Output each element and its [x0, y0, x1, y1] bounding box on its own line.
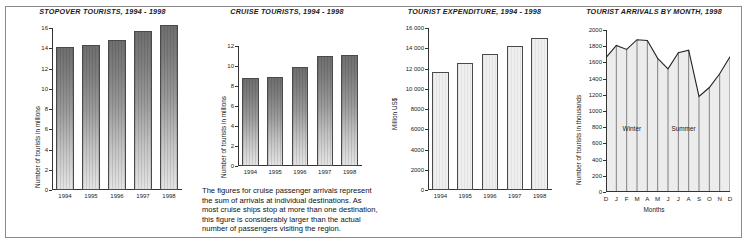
y-tick-label-cruise: 0 — [231, 163, 234, 169]
y-tick-stopover — [49, 28, 52, 29]
tourism-statistics-figure: STOPOVER TOURISTS, 1994 - 1998 Number of… — [0, 0, 747, 244]
x-tick-label-arrivals: F — [625, 195, 629, 202]
y-tick-arrivals — [603, 143, 606, 144]
x-tick-label-stopover: 1994 — [52, 193, 78, 199]
chart-panel-arrivals-by-month: TOURIST ARRIVALS BY MONTH, 1998 Number o… — [566, 0, 742, 232]
y-tick-expenditure — [425, 150, 428, 151]
y-tick-arrivals — [603, 79, 606, 80]
y-tick-label-stopover: 6 — [45, 126, 48, 132]
bar-cruise — [267, 77, 283, 166]
y-tick-label-expenditure: 16 000 — [406, 25, 424, 31]
plot-area-cruise-tourists: 02468101219941995199619971998 — [238, 46, 362, 166]
bar-stopover — [82, 45, 99, 190]
y-tick-expenditure — [425, 170, 428, 171]
y-tick-label-expenditure: 8000 — [411, 106, 424, 112]
bar-stopover — [108, 40, 125, 190]
y-tick-stopover — [49, 109, 52, 110]
chart-title-arrivals-by-month: TOURIST ARRIVALS BY MONTH, 1998 — [566, 7, 742, 16]
y-tick-label-stopover: 4 — [45, 147, 48, 153]
bar-cruise — [292, 67, 308, 166]
y-tick-arrivals — [603, 30, 606, 31]
x-tick-label-arrivals: J — [677, 195, 680, 202]
y-tick-label-cruise: 4 — [231, 123, 234, 129]
x-tick-label-arrivals: J — [666, 195, 669, 202]
x-tick-label-expenditure: 1994 — [428, 193, 453, 199]
x-tick-label-arrivals: A — [645, 195, 649, 202]
season-annotation-winter: Winter — [623, 125, 641, 132]
x-tick-label-cruise: 1994 — [238, 169, 263, 175]
x-tick-label-expenditure: 1996 — [478, 193, 503, 199]
y-tick-label-arrivals: 1400 — [589, 76, 602, 82]
y-tick-label-cruise: 12 — [227, 43, 234, 49]
x-tick-label-stopover: 1997 — [130, 193, 156, 199]
y-tick-label-arrivals: 1800 — [589, 43, 602, 49]
y-tick-cruise — [235, 146, 238, 147]
y-tick-label-stopover: 12 — [41, 66, 48, 72]
y-tick-label-expenditure: 6000 — [411, 126, 424, 132]
y-tick-arrivals — [603, 176, 606, 177]
x-tick-label-stopover: 1996 — [104, 193, 130, 199]
y-tick-label-expenditure: 10 000 — [406, 86, 424, 92]
bar-cruise — [341, 55, 357, 166]
y-axis-stopover-tourists — [52, 28, 53, 190]
y-tick-label-stopover: 10 — [41, 86, 48, 92]
y-tick-label-cruise: 10 — [227, 63, 234, 69]
bar-cruise — [242, 78, 258, 166]
y-tick-cruise — [235, 166, 238, 167]
bar-stopover — [160, 25, 177, 190]
y-tick-expenditure — [425, 129, 428, 130]
y-tick-cruise — [235, 86, 238, 87]
y-tick-cruise — [235, 126, 238, 127]
y-tick-stopover — [49, 190, 52, 191]
chart-title-tourist-expenditure: TOURIST EXPENDITURE, 1994 - 1998 — [382, 7, 567, 16]
y-tick-label-expenditure: 2000 — [411, 167, 424, 173]
y-tick-label-arrivals: 2000 — [589, 27, 602, 33]
x-tick-label-arrivals: S — [697, 195, 701, 202]
y-axis-cruise-tourists — [238, 46, 239, 166]
y-axis-label-cruise-tourists: Number of tourists in millions — [220, 96, 227, 178]
y-tick-label-expenditure: 4000 — [411, 147, 424, 153]
bar-expenditure — [432, 72, 448, 190]
y-tick-label-cruise: 8 — [231, 83, 234, 89]
y-tick-label-expenditure: 12 000 — [406, 66, 424, 72]
y-tick-label-expenditure: 0 — [421, 187, 424, 193]
y-tick-label-stopover: 16 — [41, 25, 48, 31]
y-tick-label-expenditure: 14 000 — [406, 45, 424, 51]
y-axis-label-stopover-tourists: Number of tourists in millions — [34, 106, 41, 188]
y-tick-label-stopover: 8 — [45, 106, 48, 112]
y-axis-label-tourist-expenditure: Million US$ — [391, 98, 398, 130]
y-tick-label-arrivals: 200 — [592, 173, 602, 179]
bar-expenditure — [457, 63, 473, 190]
y-tick-stopover — [49, 150, 52, 151]
y-tick-label-arrivals: 1200 — [589, 92, 602, 98]
chart-panel-cruise-tourists: CRUISE TOURISTS, 1994 - 1998 Number of t… — [196, 0, 378, 232]
bar-expenditure — [482, 54, 498, 190]
plot-area-stopover-tourists: 024681012141619941995199619971998 — [52, 28, 182, 190]
y-tick-label-stopover: 0 — [45, 187, 48, 193]
x-tick-label-arrivals: A — [687, 195, 691, 202]
x-tick-label-cruise: 1998 — [337, 169, 362, 175]
y-tick-label-arrivals: 1600 — [589, 59, 602, 65]
x-tick-label-arrivals: N — [717, 195, 721, 202]
chart-title-cruise-tourists: CRUISE TOURISTS, 1994 - 1998 — [196, 7, 378, 16]
y-axis-tourist-expenditure — [428, 28, 429, 190]
y-tick-arrivals — [603, 192, 606, 193]
x-tick-label-arrivals: M — [634, 195, 639, 202]
y-tick-stopover — [49, 89, 52, 90]
y-tick-label-stopover: 14 — [41, 45, 48, 51]
area-series-arrivals — [606, 30, 730, 192]
plot-area-tourist-expenditure: 0200040006000800010 00012 00014 00016 00… — [428, 28, 552, 190]
y-tick-arrivals — [603, 127, 606, 128]
y-tick-arrivals — [603, 95, 606, 96]
y-tick-label-cruise: 2 — [231, 143, 234, 149]
bar-expenditure — [507, 46, 523, 190]
y-tick-label-cruise: 6 — [231, 103, 234, 109]
y-axis-arrivals-by-month — [606, 30, 607, 192]
bar-stopover — [56, 47, 73, 190]
x-tick-label-cruise: 1997 — [312, 169, 337, 175]
y-tick-arrivals — [603, 111, 606, 112]
y-tick-expenditure — [425, 28, 428, 29]
y-tick-stopover — [49, 48, 52, 49]
y-tick-expenditure — [425, 89, 428, 90]
y-tick-arrivals — [603, 46, 606, 47]
